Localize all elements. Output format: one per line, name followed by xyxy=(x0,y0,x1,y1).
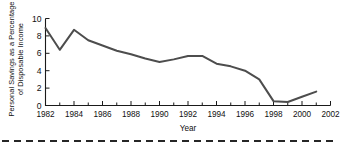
x-tick-label: 1990 xyxy=(150,110,169,119)
x-tick-label: 1996 xyxy=(236,110,255,119)
y-tick-label: 10 xyxy=(32,14,42,24)
x-tick-label: 1986 xyxy=(93,110,112,119)
x-tick-label: 1992 xyxy=(179,110,198,119)
y-tick-label: 6 xyxy=(37,48,42,58)
x-tick-label: 2002 xyxy=(321,110,340,119)
x-tick-label: 1982 xyxy=(36,110,55,119)
x-tick-label: 1998 xyxy=(264,110,283,119)
x-tick-label: 1984 xyxy=(65,110,84,119)
y-tick-label-group: 0246810 xyxy=(32,14,42,111)
x-tick-label: 2000 xyxy=(293,110,312,119)
y-tick-label: 2 xyxy=(37,83,42,93)
y-tick-label: 8 xyxy=(37,31,42,41)
x-tick-label-group: 1982198419861988199019921994199619982000… xyxy=(36,110,340,119)
y-tick-label: 4 xyxy=(37,66,42,76)
savings-rate-line-chart: Personal Savings as a Percentage of Disp… xyxy=(0,0,340,148)
axis-lines xyxy=(46,19,331,106)
x-tick-label: 1994 xyxy=(207,110,226,119)
x-tick-label: 1988 xyxy=(122,110,141,119)
savings-rate-series xyxy=(46,28,317,102)
x-axis-title: Year xyxy=(180,124,197,133)
chart-canvas: 0246810 19821984198619881990199219941996… xyxy=(0,0,340,148)
